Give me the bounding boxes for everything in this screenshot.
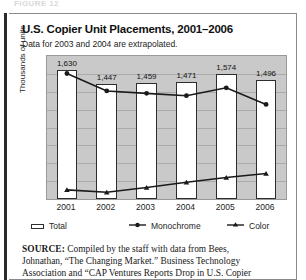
- source-line-2: Johnathan, “The Changing Market.” Busine…: [22, 255, 290, 267]
- source-label: SOURCE:: [22, 244, 65, 254]
- source-line-1: SOURCE: Compiled by the staff with data …: [22, 243, 290, 255]
- marker-monochrome-2002: [104, 89, 109, 94]
- marker-monochrome-2003: [144, 91, 149, 96]
- legend-label-color: Color: [249, 221, 269, 231]
- figure-inner: U.S. Copier Unit Placements, 2001–2006 D…: [13, 13, 297, 280]
- x-tick-2003: 2003: [126, 202, 166, 212]
- line-color: [67, 174, 266, 193]
- plot-region: 1,6301,4471,4591,4711,5741,496: [46, 55, 287, 200]
- legend-item-monochrome: Monochrome: [129, 221, 201, 231]
- marker-monochrome-2004: [184, 93, 189, 98]
- y-axis-label: Thousands of units: [18, 13, 27, 93]
- source-line-3: Association and “CAP Ventures Reports Dr…: [22, 267, 290, 279]
- line-monochrome: [67, 73, 266, 104]
- source-note: SOURCE: Compiled by the staff with data …: [22, 243, 290, 280]
- page-title: U.S. Copier Unit Placements, 2001–2006: [22, 23, 233, 35]
- chart-subtitle: Data for 2003 and 2004 are extrapolated.: [22, 39, 177, 49]
- marker-monochrome-2001: [65, 71, 70, 76]
- source-text-1: Compiled by the staff with data from Bee…: [65, 244, 229, 254]
- legend-swatch-total-bar-icon: [31, 224, 44, 229]
- x-tick-2001: 2001: [46, 202, 86, 212]
- x-tick-2006: 2006: [245, 202, 285, 212]
- legend-label-total: Total: [49, 221, 67, 231]
- chart-legend: Total Monochrome Color: [31, 221, 287, 235]
- figure-number-strip: FIGURE 12: [14, 0, 134, 8]
- chart-area: Thousands of units 1,6301,4471,4591,4711…: [22, 55, 287, 215]
- figure-left-rule: [4, 13, 7, 280]
- x-tick-2005: 2005: [205, 202, 245, 212]
- x-axis-tick-labels: 200120022003200420052006: [46, 202, 287, 216]
- legend-label-monochrome: Monochrome: [151, 221, 201, 231]
- figure-root: FIGURE 12 U.S. Copier Unit Placements, 2…: [0, 0, 306, 280]
- legend-item-total: Total: [31, 221, 67, 231]
- legend-swatch-color-line-triangle-icon: [227, 221, 244, 231]
- legend-swatch-monochrome-line-circle-icon: [129, 221, 146, 231]
- marker-monochrome-2006: [264, 102, 269, 107]
- x-tick-2002: 2002: [86, 202, 126, 212]
- marker-monochrome-2005: [224, 85, 229, 90]
- x-tick-2004: 2004: [166, 202, 206, 212]
- line-series-layer: [47, 56, 286, 199]
- legend-item-color: Color: [227, 221, 269, 231]
